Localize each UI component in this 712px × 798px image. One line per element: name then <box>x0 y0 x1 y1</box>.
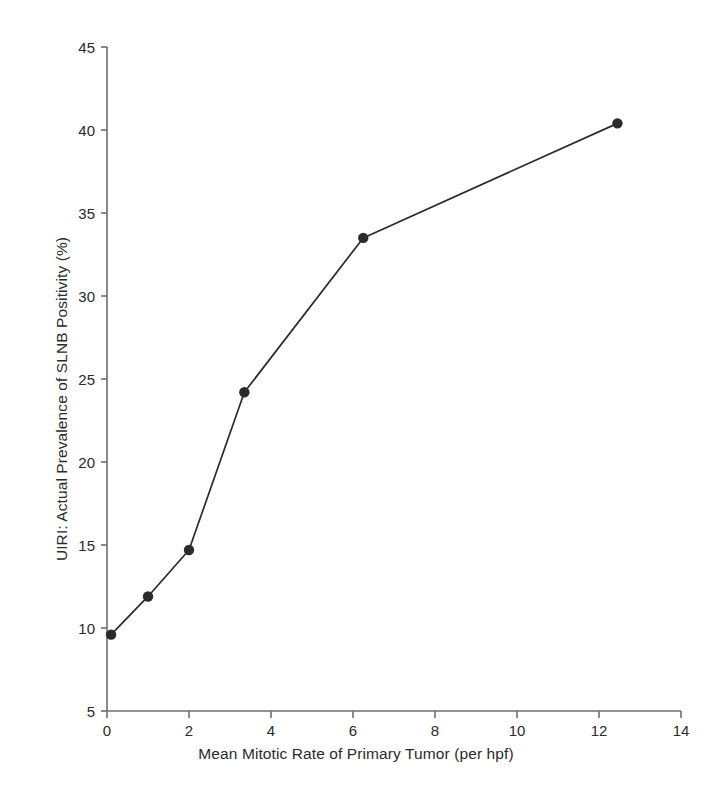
plot-area <box>0 0 712 798</box>
data-point-marker <box>612 118 622 128</box>
data-point-marker <box>239 387 249 397</box>
series-line <box>111 123 617 634</box>
data-point-marker <box>358 233 368 243</box>
data-point-marker <box>106 629 116 639</box>
axes <box>101 47 681 718</box>
chart-figure: UIRI: Actual Prevalence of SLNB Positivi… <box>0 0 712 798</box>
data-point-marker <box>184 545 194 555</box>
data-series <box>106 118 623 640</box>
data-point-marker <box>143 591 153 601</box>
